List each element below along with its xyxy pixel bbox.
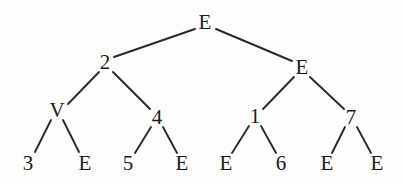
tree-node-n13: E (321, 153, 334, 174)
tree-node-n14: E (371, 153, 384, 174)
tree-edge (261, 126, 276, 153)
tree-edge (163, 127, 177, 153)
tree-node-n1: 2 (100, 52, 111, 73)
tree-edge (114, 29, 195, 57)
tree-edge (310, 77, 344, 109)
tree-node-n9: 5 (123, 153, 134, 174)
tree-edge (357, 127, 371, 153)
tree-node-n5: 1 (250, 106, 261, 127)
tree-edge (332, 127, 345, 153)
tree-node-n8: E (79, 153, 92, 174)
tree-edge (216, 29, 292, 61)
tree-node-n7: 3 (23, 153, 34, 174)
edge-group (35, 29, 371, 153)
tree-edge (68, 72, 99, 104)
tree-edge (135, 127, 151, 153)
tree-edge (35, 120, 51, 152)
tree-edge (232, 126, 249, 153)
tree-edge (113, 72, 150, 109)
tree-node-n11: E (220, 153, 233, 174)
tree-edge (263, 77, 294, 109)
binary-tree-diagram: E2EV4173E5EE6EE (0, 0, 404, 185)
tree-edge (63, 120, 79, 152)
tree-node-n0: E (199, 12, 212, 33)
tree-node-n3: V (49, 100, 64, 121)
tree-node-n10: E (176, 153, 189, 174)
tree-node-n2: E (296, 57, 309, 78)
tree-node-n6: 7 (346, 107, 357, 128)
tree-node-n4: 4 (152, 107, 163, 128)
tree-node-n12: 6 (276, 153, 287, 174)
